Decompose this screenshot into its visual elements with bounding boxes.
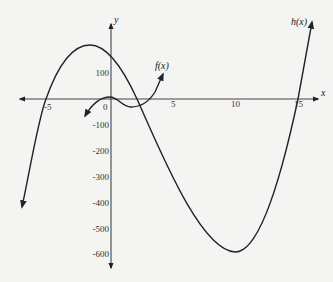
x-tick-label: -5 bbox=[44, 102, 52, 112]
y-tick-label: -600 bbox=[93, 249, 110, 259]
h-label: h(x) bbox=[291, 16, 308, 28]
chart: x y -5 0 5 10 15 100 -100 -200 -300 -400… bbox=[0, 0, 333, 282]
y-tick-label: 100 bbox=[96, 68, 110, 78]
y-tick-label: -300 bbox=[93, 172, 110, 182]
y-tick-label: -100 bbox=[93, 120, 110, 130]
x-axis-label: x bbox=[320, 87, 326, 98]
y-axis-label: y bbox=[113, 14, 119, 25]
origin-label: 0 bbox=[103, 102, 108, 112]
y-tick-label: -400 bbox=[93, 198, 110, 208]
f-curve bbox=[85, 74, 163, 116]
y-tick-label: -200 bbox=[93, 146, 110, 156]
x-tick-label: 5 bbox=[171, 99, 176, 109]
f-label: f(x) bbox=[155, 60, 170, 72]
x-tick-label: 10 bbox=[231, 99, 241, 109]
x-tick-label: 15 bbox=[294, 99, 304, 109]
h-curve bbox=[22, 22, 312, 252]
y-tick-label: -500 bbox=[93, 224, 110, 234]
